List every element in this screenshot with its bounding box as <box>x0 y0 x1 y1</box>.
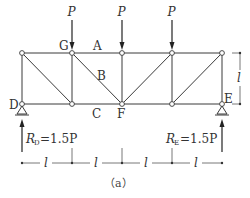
node <box>20 51 25 56</box>
load-label: P <box>67 5 77 19</box>
node-f <box>120 102 125 107</box>
load-arrow-2 <box>120 20 125 50</box>
svg-text:=1.5P: =1.5P <box>40 132 77 146</box>
reaction-arrow-right <box>220 119 225 152</box>
node <box>220 51 225 56</box>
diagonal-member-3 <box>122 53 172 104</box>
height-dimension: l <box>232 52 241 105</box>
load-arrow-1 <box>70 20 75 50</box>
label-e: E <box>224 92 233 106</box>
reaction-label-left: R D =1.5P <box>25 132 77 147</box>
load-label: P <box>117 5 127 19</box>
node <box>70 102 75 107</box>
label-d: D <box>9 98 19 112</box>
figure-caption: （a） <box>104 177 133 190</box>
span-label: l <box>44 156 48 170</box>
label-b: B <box>97 69 106 83</box>
svg-text:=1.5P: =1.5P <box>180 132 217 146</box>
reaction-label-right: R E =1.5P <box>165 132 217 147</box>
svg-text:E: E <box>174 139 179 147</box>
node <box>170 102 175 107</box>
load-arrow-3 <box>170 20 175 50</box>
label-a: A <box>92 39 102 53</box>
span-dimension: l l l l <box>21 148 223 170</box>
load-label: P <box>167 5 177 19</box>
span-label: l <box>144 156 148 170</box>
diagonal-member-1 <box>22 53 72 104</box>
diagonal-member-4 <box>172 53 222 104</box>
node <box>120 51 125 56</box>
node <box>170 51 175 56</box>
span-label: l <box>194 156 198 170</box>
node-g <box>70 51 75 56</box>
span-label: l <box>94 156 98 170</box>
label-g: G <box>59 39 69 53</box>
truss-diagram: P P P G A B C D E F R D =1.5P R E =1.5P … <box>0 0 250 198</box>
label-f: F <box>117 107 125 121</box>
reaction-arrow-left <box>20 119 25 152</box>
roller-support-icon <box>217 106 227 114</box>
label-c: C <box>92 107 101 121</box>
height-label: l <box>237 71 241 85</box>
